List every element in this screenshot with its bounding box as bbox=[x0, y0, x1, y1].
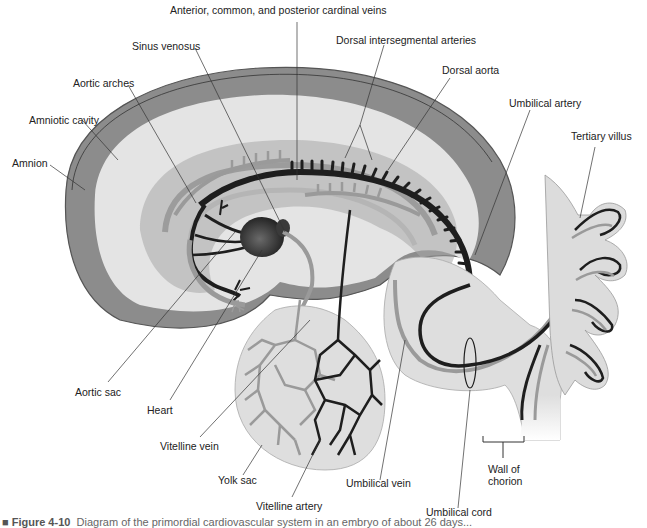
label-wall-of-chorion-line2: chorion bbox=[488, 475, 516, 487]
figure-caption: ■ Figure 4-10 Diagram of the primordial … bbox=[2, 516, 472, 528]
label-aortic-arches: Aortic arches bbox=[73, 77, 134, 89]
caption-text: Diagram of the primordial cardiovascular… bbox=[77, 516, 473, 528]
label-amniotic-cavity: Amniotic cavity bbox=[29, 114, 99, 126]
label-vitelline-vein: Vitelline vein bbox=[160, 440, 219, 452]
label-wall-of-chorion-line1: Wall of bbox=[488, 463, 516, 475]
label-wall-of-chorion: Wall of chorion bbox=[492, 463, 516, 487]
label-vitelline-artery: Vitelline artery bbox=[256, 500, 322, 512]
label-umbilical-artery: Umbilical artery bbox=[509, 97, 581, 109]
label-amnion: Amnion bbox=[12, 157, 48, 169]
figure-number: ■ Figure 4-10 bbox=[2, 516, 70, 528]
label-aortic-sac: Aortic sac bbox=[75, 386, 121, 398]
wall-of-chorion-bracket bbox=[483, 436, 524, 458]
label-sinus-venosus: Sinus venosus bbox=[132, 40, 200, 52]
label-cardinal-veins: Anterior, common, and posterior cardinal… bbox=[170, 4, 387, 16]
label-yolk-sac: Yolk sac bbox=[218, 474, 257, 486]
label-umbilical-vein: Umbilical vein bbox=[346, 477, 411, 489]
label-dorsal-aorta: Dorsal aorta bbox=[442, 64, 499, 76]
label-tertiary-villus: Tertiary villus bbox=[571, 130, 632, 142]
label-heart: Heart bbox=[147, 404, 173, 416]
label-dorsal-intersegmental-arteries: Dorsal intersegmental arteries bbox=[336, 34, 476, 46]
chorion-wall bbox=[545, 175, 627, 395]
